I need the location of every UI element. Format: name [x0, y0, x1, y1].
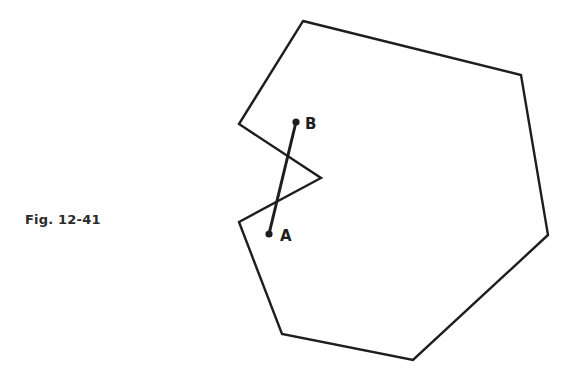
point-b-label: B: [305, 115, 316, 133]
point-b-dot: [292, 118, 299, 125]
point-a-label: A: [280, 227, 292, 245]
segment-ab: [269, 122, 296, 234]
point-a-dot: [265, 230, 272, 237]
non-convex-polygon: [239, 21, 548, 360]
polygon-diagram: A B: [0, 0, 579, 377]
